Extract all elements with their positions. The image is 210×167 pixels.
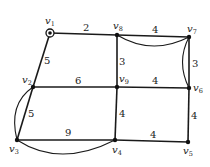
weight-v8-v7: 4	[152, 24, 158, 35]
node-v1	[48, 31, 52, 35]
node-v9	[115, 85, 119, 89]
node-v5	[186, 140, 190, 144]
highlighted-paths	[15, 35, 189, 154]
edge-v1-v8	[50, 33, 117, 35]
label-v1: v1	[45, 15, 55, 28]
arc-v7-v6	[183, 37, 190, 88]
weight-v9-v6: 4	[152, 75, 158, 86]
node-v8	[115, 33, 119, 37]
weight-v4-v5: 4	[150, 129, 156, 140]
edge-v9-v4	[115, 87, 117, 140]
label-v4: v4	[112, 144, 122, 157]
weight-v3-v4: 9	[65, 127, 71, 138]
weight-v1-v2: 5	[44, 55, 50, 66]
weight-v6-v5: 4	[191, 110, 197, 121]
weight-v8-v9: 3	[119, 56, 125, 67]
weight-v1-v8: 2	[83, 22, 89, 33]
edge-v9-v6	[117, 87, 189, 88]
edge-v4-v5	[115, 140, 188, 142]
edge-v6-v5	[188, 88, 189, 142]
label-v2: v2	[22, 74, 32, 87]
node-v6	[187, 86, 191, 90]
weight-v7-v6: 3	[192, 58, 198, 69]
graph-diagram: 2 4 3 5 3 6 4 5 9 4 4 4 v1 v2 v3 v4 v5 v…	[0, 0, 210, 167]
label-v8: v8	[113, 20, 123, 33]
weight-v2-v9: 6	[75, 75, 81, 86]
label-v7: v7	[187, 23, 197, 36]
node-v3	[15, 138, 19, 142]
label-v5: v5	[183, 145, 193, 158]
node-v4	[113, 138, 117, 142]
edge-weights: 2 4 3 5 3 6 4 5 9 4 4 4	[28, 22, 198, 140]
edge-v8-v7	[117, 35, 189, 37]
label-v9: v9	[119, 73, 129, 86]
label-v6: v6	[193, 82, 203, 95]
edges	[17, 33, 189, 142]
arc-v3-v4	[17, 140, 115, 154]
weight-v9-v4: 4	[119, 108, 125, 119]
label-v3: v3	[9, 143, 19, 156]
node-v7	[187, 35, 191, 39]
weight-v2-v3: 5	[28, 108, 34, 119]
